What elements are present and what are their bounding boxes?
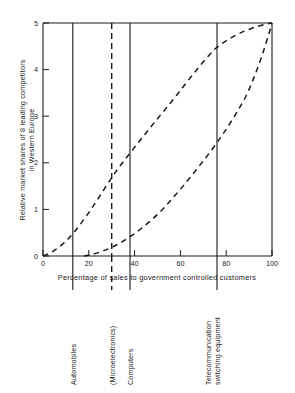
category-labels-group: Automobiles (Microelectronics) Computers… xyxy=(69,317,222,385)
category-label-computers: Computers xyxy=(126,348,135,385)
category-label-telecom-line1: Telecommunication xyxy=(204,321,213,385)
y-tick-label-5: 5 xyxy=(34,19,38,28)
figure-canvas: 0 1 2 3 4 5 0 20 40 60 80 100 xyxy=(0,0,295,393)
x-tick-label-20: 20 xyxy=(85,259,93,268)
x-tick-labels-group: 0 20 40 60 80 100 xyxy=(41,259,278,268)
x-tick-label-80: 80 xyxy=(222,259,230,268)
x-tick-label-40: 40 xyxy=(131,259,139,268)
x-axis-label: Percentage of sales to government contro… xyxy=(58,273,256,282)
y-tick-label-0: 0 xyxy=(34,252,38,261)
y-axis-label-group: Relative market shares of 8 leading comp… xyxy=(18,59,36,220)
data-curves-group xyxy=(43,23,272,256)
chart-root: 0 1 2 3 4 5 0 20 40 60 80 100 xyxy=(0,0,295,393)
y-tick-label-1: 1 xyxy=(34,205,38,214)
vertical-markers-group xyxy=(73,23,217,290)
y-axis-label-line2: in Western Europe xyxy=(27,109,36,172)
axes-group xyxy=(43,23,272,256)
y-tick-label-4: 4 xyxy=(34,65,38,74)
x-tick-label-60: 60 xyxy=(176,259,184,268)
x-tick-label-0: 0 xyxy=(41,259,45,268)
x-ticks-group xyxy=(43,250,272,256)
x-tick-label-100: 100 xyxy=(266,259,278,268)
y-ticks-group xyxy=(43,23,49,256)
y-axis-label-line1: Relative market shares of 8 leading comp… xyxy=(18,59,27,220)
category-label-automobiles: Automobiles xyxy=(69,344,78,385)
category-label-telecom-line2: switching equipment xyxy=(213,317,222,385)
category-label-microelectronics: (Microelectronics) xyxy=(108,326,117,385)
curve-upper-band xyxy=(43,23,272,256)
